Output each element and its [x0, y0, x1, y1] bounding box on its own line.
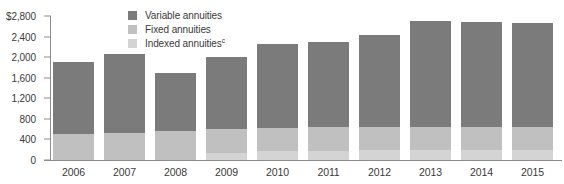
bar-segment [461, 127, 502, 150]
bar-group [308, 42, 349, 160]
bar-segment [257, 44, 298, 128]
bar-segment [359, 127, 400, 150]
bar-segment [308, 127, 349, 151]
bar-segment [461, 150, 502, 160]
annuity-sales-bar-chart: 04008001,2001,6002,0002,400$2,800 200620… [0, 0, 564, 184]
bar-group [512, 23, 553, 160]
bar-segment [410, 150, 451, 160]
bar-segment [257, 128, 298, 151]
legend-swatch-icon [128, 11, 137, 20]
bar-segment [155, 131, 196, 160]
bar-group [53, 62, 94, 160]
bar-segment [512, 127, 553, 150]
legend-swatch-icon [128, 25, 137, 34]
legend-item: Variable annuities [128, 9, 225, 22]
bar-segment [359, 35, 400, 128]
x-axis-tick-label: 2014 [456, 166, 507, 178]
plot-area: 2006200720082009201020112012201320142015 [0, 0, 564, 184]
legend-item-label: Variable annuities [145, 10, 222, 21]
x-axis-tick-label: 2010 [252, 166, 303, 178]
x-axis-tick-label: 2007 [99, 166, 150, 178]
x-axis-tick-label: 2006 [48, 166, 99, 178]
x-axis-tick-label: 2011 [303, 166, 354, 178]
legend-swatch-icon [128, 39, 137, 48]
legend-item-label: Fixed annuities [145, 24, 211, 35]
x-axis-tick-label: 2012 [354, 166, 405, 178]
x-axis-tick-label: 2009 [201, 166, 252, 178]
bar-segment [257, 151, 298, 160]
bar-segment [53, 62, 94, 133]
bar-segment [206, 129, 247, 154]
bar-group [104, 54, 145, 160]
bar-group [206, 57, 247, 160]
bar-segment [410, 21, 451, 127]
bar-segment [512, 150, 553, 160]
bar-group [410, 21, 451, 160]
bar-segment [53, 134, 94, 160]
legend-item: Indexed annuitiesc [128, 37, 225, 50]
x-axis-tick-label: 2008 [150, 166, 201, 178]
bar-group [257, 44, 298, 160]
bar-segment [104, 54, 145, 133]
bar-segment [206, 153, 247, 160]
bar-segment [512, 23, 553, 127]
chart-legend: Variable annuitiesFixed annuitiesIndexed… [128, 9, 225, 51]
x-axis-tick-label: 2013 [405, 166, 456, 178]
bar-segment [104, 133, 145, 160]
bar-group [461, 22, 502, 160]
bar-group [359, 35, 400, 160]
bar-group [155, 73, 196, 160]
bar-segment [461, 22, 502, 127]
x-axis-tick-label: 2015 [507, 166, 558, 178]
legend-item: Fixed annuities [128, 23, 225, 36]
bar-segment [308, 151, 349, 160]
bar-segment [410, 127, 451, 150]
bar-segment [308, 42, 349, 127]
legend-item-label: Indexed annuitiesc [145, 37, 225, 49]
bar-segment [359, 150, 400, 160]
bar-segment [155, 73, 196, 131]
legend-footnote-marker: c [222, 37, 225, 44]
bar-segment [206, 57, 247, 129]
